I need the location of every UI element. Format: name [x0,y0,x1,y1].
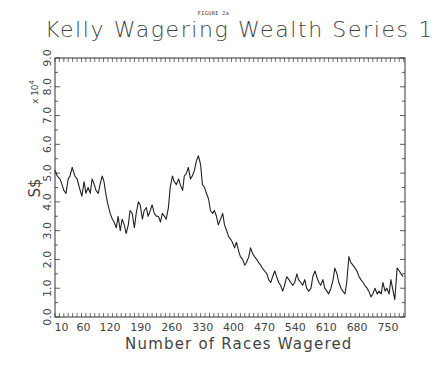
x-tick-label: 10 [54,321,68,334]
x-tick-label: 680 [347,321,368,334]
x-tick-label: 540 [285,321,306,334]
y-tick-label: 0.0 [41,308,54,326]
y-tick-label: 6.0 [41,136,54,154]
y-tick-label: 8.0 [41,78,54,96]
y-multiplier-label: x 104 [28,79,40,104]
x-tick-label: 330 [192,321,213,334]
x-tick-label: 260 [161,321,182,334]
y-tick-label: 3.0 [41,222,54,240]
y-tick-label: 1.0 [41,279,54,297]
x-tick-label: 400 [223,321,244,334]
y-axis-ticks [55,58,405,317]
x-axis-label: Number of Races Wagered [125,335,353,353]
x-tick-label: 610 [316,321,337,334]
x-tick-label: 120 [99,321,120,334]
wealth-series-line [55,156,403,300]
y-tick-label: 2.0 [41,251,54,269]
x-tick-label: 60 [76,321,90,334]
y-tick-label: 7.0 [41,107,54,125]
x-axis-tick-labels: 1060120190260330400470540610680750 [54,321,398,334]
x-tick-label: 750 [378,321,399,334]
plot-frame [55,58,405,317]
x-axis-ticks [55,58,404,317]
x-tick-label: 190 [130,321,151,334]
x-tick-label: 470 [254,321,275,334]
y-tick-label: 9.0 [41,49,54,67]
y-axis-label: S$ [26,178,44,197]
